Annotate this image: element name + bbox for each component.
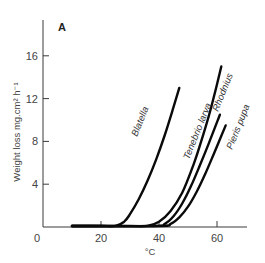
series-label-pieris: Pieris pupa [224,103,252,151]
series-line-tenebrio [72,67,221,227]
y-tick-label: 4 [32,178,38,190]
x-tick-label: 60 [211,232,223,244]
panel-label: A [58,21,66,33]
weight-loss-chart: 0204060 481216 A °C Weight loss mg.cm² h… [0,0,265,263]
series-label-rhodnius: Rhodnius [210,71,235,113]
x-axis-label: °C [145,246,156,257]
y-tick-label: 12 [26,93,38,105]
y-tick-label: 16 [26,50,38,62]
x-tick-label: 0 [34,232,40,244]
x-ticks: 0204060 [34,221,223,244]
series-line-blatella [72,88,179,226]
series-labels: Blatella Tenebrio larva Rhodnius Pieris … [129,71,252,161]
x-tick-label: 20 [95,232,107,244]
series-group [72,67,226,227]
y-ticks: 481216 [26,50,49,190]
y-tick-label: 8 [32,135,38,147]
x-tick-label: 40 [153,232,165,244]
y-axis-label: Weight loss mg.cm² h⁻¹ [11,82,22,181]
series-label-blatella: Blatella [129,105,151,138]
